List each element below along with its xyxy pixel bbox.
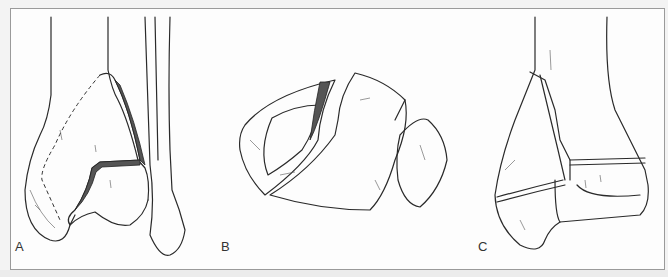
panel-label-c: C: [478, 239, 487, 254]
panel-label-a: A: [15, 239, 24, 254]
panel-c-drawing: [495, 17, 648, 249]
panel-b-drawing: [240, 73, 447, 210]
figure-illustration: [0, 0, 668, 277]
panel-label-b: B: [221, 239, 230, 254]
panel-a-drawing: [25, 17, 185, 255]
